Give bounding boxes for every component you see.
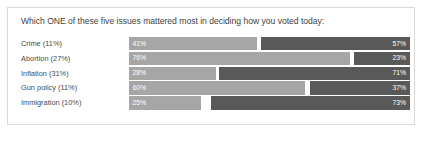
bar-segment-right: 71%: [219, 67, 410, 80]
bar-segment-left: 76%: [129, 52, 350, 65]
bar-value-right: 73%: [392, 99, 410, 107]
bar-value-left: 41%: [129, 40, 146, 48]
bar-track: 28%71%: [129, 67, 410, 80]
bar-rows: Crime (11%)41%57%Abortion (27%)76%23%Inf…: [8, 37, 414, 111]
bar-track: 60%37%: [129, 81, 410, 94]
bar-segment-left: 41%: [129, 37, 257, 50]
bar-segment-right: 37%: [310, 81, 410, 94]
bar-value-right: 37%: [392, 84, 410, 92]
chart-card: Which ONE of these five issues mattered …: [7, 7, 415, 125]
chart-row: Abortion (27%)76%23%: [8, 52, 414, 66]
chart-row: Gun policy (11%)60%37%: [8, 81, 414, 95]
bar-value-right: 71%: [392, 69, 410, 77]
bar-segment-right: 23%: [354, 52, 410, 65]
bar-track: 76%23%: [129, 52, 410, 65]
bar-value-left: 28%: [129, 69, 146, 77]
bar-segment-left: 28%: [129, 67, 216, 80]
row-label: Immigration (10%): [21, 98, 126, 108]
bar-value-left: 25%: [129, 99, 146, 107]
row-label: Abortion (27%): [21, 54, 126, 64]
bar-value-right: 23%: [392, 54, 410, 62]
chart-row: Crime (11%)41%57%: [8, 37, 414, 51]
bar-track: 41%57%: [129, 37, 410, 50]
bar-segment-left: 60%: [129, 81, 305, 94]
chart-title: Which ONE of these five issues mattered …: [21, 16, 401, 27]
chart-row: Immigration (10%)25%73%: [8, 96, 414, 110]
row-label: Crime (11%): [21, 39, 126, 49]
bar-segment-left: 25%: [129, 96, 201, 109]
bar-value-right: 57%: [392, 40, 410, 48]
chart-row: Inflation (31%)28%71%: [8, 67, 414, 81]
row-label: Inflation (31%): [21, 69, 126, 79]
bar-value-left: 60%: [129, 84, 146, 92]
bar-segment-right: 73%: [211, 96, 411, 109]
row-label: Gun policy (11%): [21, 83, 126, 93]
bar-segment-right: 57%: [261, 37, 410, 50]
bar-value-left: 76%: [129, 54, 146, 62]
bar-track: 25%73%: [129, 96, 410, 109]
